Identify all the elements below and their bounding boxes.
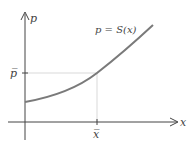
- y-axis-label: p: [30, 12, 37, 25]
- curve-label: p = S(x): [95, 24, 137, 35]
- p-bar-label: p̅: [10, 67, 17, 80]
- supply-curve-diagram: p x p = S(x) p̅ x̅: [0, 0, 189, 145]
- x-bar-label: x̅: [93, 128, 100, 141]
- x-axis-label: x: [180, 116, 187, 129]
- supply-curve: [25, 25, 153, 102]
- diagram-canvas: p x p = S(x) p̅ x̅: [0, 0, 189, 145]
